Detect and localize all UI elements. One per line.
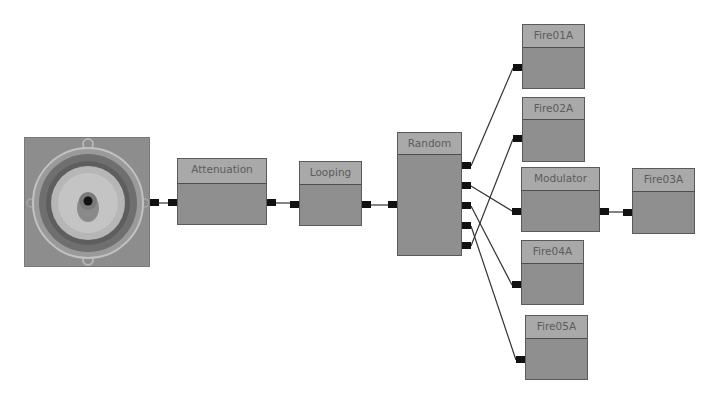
random-output-pin-4[interactable] (462, 222, 471, 229)
fire01a-input-pin[interactable] (513, 64, 522, 71)
fire01a-node[interactable]: Fire01A (522, 24, 585, 89)
looping-output-pin[interactable] (362, 201, 371, 208)
fire05a-node[interactable]: Fire05A (525, 315, 588, 380)
random-output-pin-5[interactable] (462, 242, 471, 249)
fire05a-node-title: Fire05A (526, 316, 587, 339)
random-node-title: Random (398, 133, 461, 155)
graph-canvas[interactable]: Attenuation Looping Random Fire01A Fire0… (0, 0, 716, 401)
looping-node[interactable]: Looping (299, 161, 362, 226)
attenuation-node[interactable]: Attenuation (177, 158, 267, 225)
looping-node-title: Looping (300, 162, 361, 185)
random-input-pin[interactable] (388, 201, 397, 208)
attenuation-input-pin[interactable] (168, 199, 177, 206)
wire-random-fire05a (471, 226, 516, 360)
modulator-node[interactable]: Modulator (521, 167, 600, 232)
wire-random-modulator (471, 186, 512, 211)
random-output-pin-3[interactable] (462, 202, 471, 209)
fire05a-input-pin[interactable] (516, 356, 525, 363)
modulator-input-pin[interactable] (512, 208, 521, 215)
fire04a-input-pin[interactable] (512, 281, 521, 288)
fire03a-node-title: Fire03A (633, 169, 694, 192)
random-output-pin-1[interactable] (462, 162, 471, 169)
fire01a-node-title: Fire01A (523, 25, 584, 48)
wire-random-fire01a (471, 68, 513, 166)
attenuation-node-title: Attenuation (178, 159, 266, 184)
fire02a-node[interactable]: Fire02A (522, 97, 585, 162)
fire04a-node-title: Fire04A (522, 241, 583, 264)
wire-random-fire02a (471, 139, 513, 246)
fire04a-node[interactable]: Fire04A (521, 240, 584, 305)
fire03a-node[interactable]: Fire03A (632, 168, 695, 234)
fire02a-node-title: Fire02A (523, 98, 584, 120)
looping-input-pin[interactable] (290, 201, 299, 208)
speaker-input-pin[interactable] (150, 199, 159, 206)
random-node[interactable]: Random (397, 132, 462, 256)
speaker-icon (25, 138, 149, 266)
random-output-pin-2[interactable] (462, 182, 471, 189)
attenuation-output-pin[interactable] (267, 199, 276, 206)
modulator-node-title: Modulator (522, 168, 599, 191)
wire-random-fire04a (471, 206, 512, 285)
modulator-output-pin[interactable] (600, 208, 609, 215)
fire02a-input-pin[interactable] (513, 135, 522, 142)
sound-output-node[interactable] (24, 137, 150, 267)
fire03a-input-pin[interactable] (623, 209, 632, 216)
